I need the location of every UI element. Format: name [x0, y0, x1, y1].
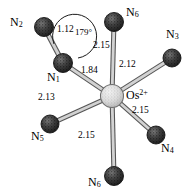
- structure-canvas: [0, 0, 193, 195]
- atom-label-os: Os2+: [126, 89, 148, 101]
- atom-label-n2: N2: [10, 16, 23, 29]
- bond-length-os-n4: 2.15: [132, 106, 149, 116]
- atom-sphere-os: [101, 85, 124, 108]
- atom-sphere-n2: [35, 18, 54, 37]
- atom-label-n1: N1: [47, 71, 60, 84]
- atom-label-n6-top: N6: [126, 6, 139, 19]
- atom-label-n4: N4: [161, 142, 174, 155]
- atom-sphere-n6-bottom: [105, 167, 124, 186]
- bond-length-os-n1: 1.84: [81, 66, 98, 76]
- bond-length-n1-n2: 1.12: [57, 25, 74, 35]
- atom-label-n3: N3: [166, 28, 179, 41]
- bond-length-os-n5: 2.13: [38, 93, 55, 103]
- atom-label-n6-bottom: N6: [88, 176, 101, 189]
- atom-sphere-n3: [163, 49, 181, 67]
- atom-sphere-n5: [41, 115, 59, 133]
- molecular-structure-figure: N2 N1 N3 N4 N5 N6 N6 Os2+ 1.12 1.84 2.15…: [0, 0, 193, 195]
- atom-label-n5: N5: [31, 130, 44, 143]
- bond-length-os-n3: 2.12: [119, 60, 136, 70]
- bond-length-os-n6-top: 2.15: [93, 41, 110, 51]
- atom-sphere-n1: [54, 54, 73, 73]
- atom-sphere-n6-top: [105, 13, 124, 32]
- bond-angle-n2-n1-os: 179°: [75, 28, 92, 37]
- bond-length-os-n6-bottom: 2.15: [78, 131, 95, 141]
